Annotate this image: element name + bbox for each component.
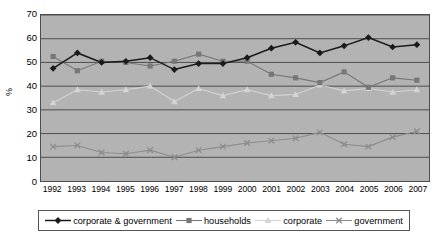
data-point-square bbox=[196, 52, 201, 57]
series-line bbox=[53, 38, 417, 70]
chart-container: % 010203040506070 1992199319941995199619… bbox=[0, 0, 444, 243]
legend-label: corporate & government bbox=[73, 216, 172, 226]
legend-label: corporate bbox=[283, 216, 322, 226]
y-axis-ticks: 010203040506070 bbox=[0, 0, 37, 196]
data-point-diamond bbox=[195, 60, 202, 67]
legend-marker-cross-icon bbox=[326, 215, 352, 226]
data-point-square bbox=[172, 59, 177, 64]
series-households bbox=[51, 52, 420, 90]
legend-label: households bbox=[204, 216, 251, 226]
data-point-triangle bbox=[171, 98, 178, 104]
y-tick-label: 30 bbox=[1, 105, 37, 115]
data-point-diamond bbox=[268, 45, 275, 52]
chart-legend: corporate & governmenthouseholdscorporat… bbox=[38, 210, 410, 231]
x-tick-label: 2000 bbox=[235, 185, 259, 199]
data-point-square bbox=[414, 78, 419, 83]
x-tick-label: 2005 bbox=[357, 185, 381, 199]
data-point-triangle bbox=[74, 86, 81, 92]
data-point-diamond bbox=[341, 42, 348, 49]
legend-item[interactable]: government bbox=[326, 215, 403, 226]
plot-svg bbox=[41, 15, 429, 181]
data-point-diamond bbox=[147, 54, 154, 61]
x-axis-ticks: 1992199319941995199619971998199920002001… bbox=[40, 185, 430, 199]
legend-marker-diamond-icon bbox=[45, 215, 71, 226]
legend-marker-square-icon bbox=[176, 215, 202, 226]
data-point-diamond bbox=[55, 217, 62, 224]
data-point-diamond bbox=[316, 50, 323, 57]
x-tick-label: 1995 bbox=[113, 185, 137, 199]
x-tick-label: 1996 bbox=[138, 185, 162, 199]
x-tick-label: 1992 bbox=[40, 185, 64, 199]
y-tick-label: 70 bbox=[1, 9, 37, 19]
legend-item[interactable]: corporate bbox=[255, 215, 322, 226]
x-tick-label: 1998 bbox=[186, 185, 210, 199]
data-point-square bbox=[293, 75, 298, 80]
legend-item[interactable]: corporate & government bbox=[45, 215, 172, 226]
series-line bbox=[53, 131, 417, 157]
x-tick-label: 1994 bbox=[89, 185, 113, 199]
x-tick-label: 1997 bbox=[162, 185, 186, 199]
x-tick-label: 2004 bbox=[333, 185, 357, 199]
legend-label: government bbox=[354, 216, 403, 226]
data-point-triangle bbox=[413, 86, 420, 92]
data-point-diamond bbox=[365, 34, 372, 41]
x-tick-label: 2006 bbox=[381, 185, 405, 199]
y-tick-label: 40 bbox=[1, 81, 37, 91]
y-tick-label: 20 bbox=[1, 129, 37, 139]
x-tick-label: 2001 bbox=[259, 185, 283, 199]
x-tick-label: 1999 bbox=[211, 185, 235, 199]
data-point-square bbox=[317, 80, 322, 85]
data-point-square bbox=[148, 63, 153, 68]
data-point-triangle bbox=[244, 86, 251, 92]
legend-item[interactable]: households bbox=[176, 215, 251, 226]
plot-area bbox=[40, 14, 430, 182]
x-tick-label: 2002 bbox=[284, 185, 308, 199]
series-corporate-government bbox=[50, 34, 421, 73]
data-point-square bbox=[186, 218, 191, 223]
data-point-diamond bbox=[292, 39, 299, 46]
data-point-square bbox=[390, 75, 395, 80]
data-point-diamond bbox=[413, 41, 420, 48]
y-tick-label: 60 bbox=[1, 33, 37, 43]
y-tick-label: 0 bbox=[1, 177, 37, 187]
x-tick-label: 2007 bbox=[406, 185, 430, 199]
data-point-square bbox=[342, 69, 347, 74]
data-point-square bbox=[51, 54, 56, 59]
series-line bbox=[53, 54, 417, 87]
data-point-square bbox=[75, 68, 80, 73]
data-point-square bbox=[269, 72, 274, 77]
data-point-diamond bbox=[171, 66, 178, 73]
series-line bbox=[53, 85, 417, 103]
y-tick-label: 10 bbox=[1, 153, 37, 163]
legend-marker-triangle-icon bbox=[255, 215, 281, 226]
data-point-triangle bbox=[50, 99, 57, 105]
data-point-diamond bbox=[389, 44, 396, 51]
x-tick-label: 1993 bbox=[64, 185, 88, 199]
data-point-square bbox=[366, 85, 371, 90]
y-tick-label: 50 bbox=[1, 57, 37, 67]
x-tick-label: 2003 bbox=[308, 185, 332, 199]
